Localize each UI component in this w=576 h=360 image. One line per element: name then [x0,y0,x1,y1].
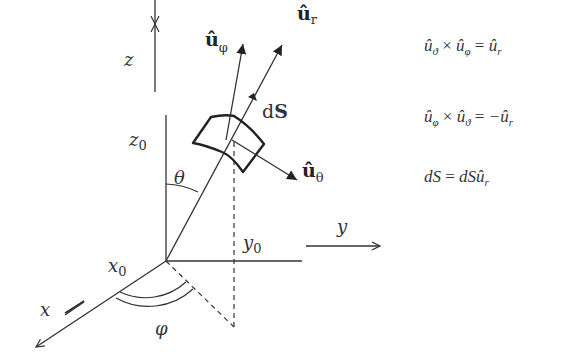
x-axis-line [36,261,166,347]
diagram-canvas: z z0 θ y y0 x x0 φ ûφ [0,0,576,360]
u-r-label: ûr [297,2,318,27]
x-axis-label: x [40,299,50,320]
phi-label: φ [155,318,168,339]
theta-label: θ [174,167,185,188]
y0-label: y0 [242,232,261,256]
x-axis-indicator [66,300,85,336]
x-axis-arrow-indicator [65,302,84,315]
z-axis-label: z [123,49,134,70]
equation-1: ûϑ × ûφ = ûr [424,36,501,57]
y-axis-label: y [336,216,348,237]
equation-3: dS = dSûr [424,167,489,188]
x-axis-second-line [65,301,84,313]
u-theta-vector [232,140,297,180]
x0-label: x0 [108,255,126,279]
u-phi-vector [226,44,243,140]
u-theta-label: ûθ [302,159,324,185]
u-phi-label: ûφ [205,28,228,55]
phi-arc-outer [116,289,193,306]
dS-label: dS [262,100,288,122]
projection-dashed-diagonal [166,261,234,327]
z0-label: z0 [128,129,147,153]
equation-2: ûφ × ûϑ = −ûr [424,107,513,128]
